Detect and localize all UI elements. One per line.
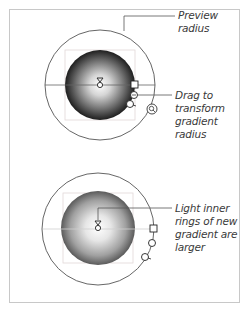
callout-line: Preview bbox=[178, 9, 218, 22]
gradient-diagram bbox=[0, 0, 252, 313]
width-handle[interactable] bbox=[150, 225, 157, 232]
width-handle[interactable] bbox=[131, 81, 138, 88]
panel-before bbox=[45, 16, 175, 140]
panel-after bbox=[42, 173, 172, 285]
callout-drag-radius: Drag to transform gradient radius bbox=[175, 89, 225, 141]
radius-handle[interactable] bbox=[131, 92, 138, 99]
callout-preview-radius: Preview radius bbox=[178, 9, 218, 35]
callout-line: Drag to bbox=[175, 89, 225, 102]
callout-line: gradient are bbox=[175, 228, 237, 241]
rotation-handle[interactable] bbox=[142, 254, 152, 261]
callout-line: larger bbox=[175, 241, 237, 254]
callout-light-inner-rings: Light inner rings of new gradient are la… bbox=[175, 202, 237, 254]
rotation-handle[interactable] bbox=[127, 101, 137, 108]
leader-preview-radius bbox=[124, 16, 175, 31]
magnify-icon bbox=[147, 104, 157, 114]
callout-line: radius bbox=[175, 128, 225, 141]
radius-handle[interactable] bbox=[149, 240, 156, 247]
callout-line: gradient bbox=[175, 115, 225, 128]
callout-line: Light inner bbox=[175, 202, 237, 215]
callout-line: rings of new bbox=[175, 215, 237, 228]
callout-line: radius bbox=[178, 22, 218, 35]
callout-line: transform bbox=[175, 102, 225, 115]
